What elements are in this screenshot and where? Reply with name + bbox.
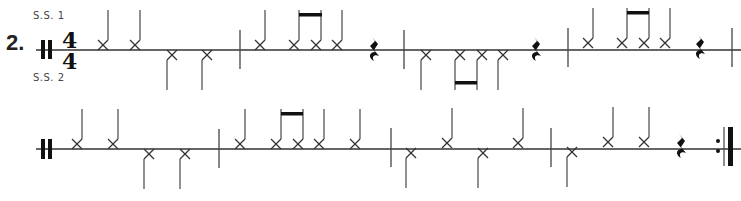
svg-text:4: 4 [62,48,77,74]
measure-4 [583,8,705,59]
system-2 [36,107,741,189]
beam [299,13,322,17]
quarter-rest-icon [696,35,705,59]
quarter-rest-icon [370,37,379,61]
measure-2 [255,10,379,61]
measure-3 [421,37,541,90]
quarter-rest-icon [677,134,686,158]
measure-7 [406,108,523,188]
notation-canvas: 4 4 [0,0,741,201]
time-signature: 4 4 [62,27,77,74]
measure-6 [235,109,360,149]
beam [281,112,303,116]
system-1: 4 4 [36,8,741,90]
beam [455,81,477,85]
quarter-rest-icon [532,37,541,61]
beam [627,11,649,15]
measure-8 [567,107,686,187]
repeat-end-barline-icon [716,127,733,166]
